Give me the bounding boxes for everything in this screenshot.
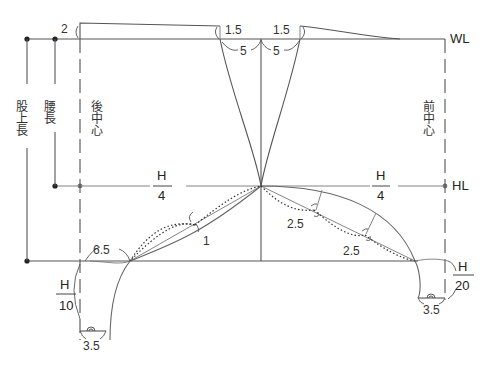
front-crotch-fraction: H 20 <box>453 259 474 293</box>
svg-text:H: H <box>157 168 166 183</box>
hip-line-label: HL <box>452 178 469 193</box>
hip-depth-label: 腰長 <box>41 100 55 124</box>
dart-right-height-arc <box>301 27 305 39</box>
back-center-label: 後中心 <box>88 100 102 136</box>
svg-text:10: 10 <box>59 298 73 313</box>
front-curve-offset-1-label: 2.5 <box>287 217 304 231</box>
front-hip-fraction: H 4 <box>370 168 398 203</box>
back-offset-mark <box>189 212 193 222</box>
waist-line-label: WL <box>450 31 470 46</box>
back-crotch-ext-label: 6.5 <box>93 243 110 257</box>
crotch-line <box>24 258 418 263</box>
back-rise-label: 2 <box>61 22 68 36</box>
dart-right-width-label: 5 <box>273 44 280 58</box>
svg-text:H: H <box>60 277 69 292</box>
front-inseam-arc-right <box>439 298 445 304</box>
dart-left-height-arc <box>215 27 219 39</box>
front-center-label: 前中心 <box>420 99 434 136</box>
back-grainline-icon <box>87 327 95 331</box>
svg-text:股上長: 股上長 <box>13 100 27 136</box>
front-inseam-label: 3.5 <box>423 303 440 317</box>
dart-left-width-arc <box>222 42 238 50</box>
dart-right-width-arc <box>261 40 271 50</box>
dart-left-height-label: 1.5 <box>225 23 242 37</box>
back-inseam-arc-left <box>80 331 86 339</box>
back-crotch-curves <box>90 186 261 340</box>
back-curve-offset-label: 1 <box>203 234 210 248</box>
svg-text:20: 20 <box>455 278 469 293</box>
back-crotch-drop-fraction: H 10 <box>56 277 76 313</box>
front-grainline-icon <box>427 294 435 298</box>
back-hip-fraction: H 4 <box>150 168 186 203</box>
dart-left-width-arc2 <box>251 40 261 50</box>
dart-left-width-label: 5 <box>240 44 247 58</box>
back-crotch-ext-arc-right <box>119 249 130 261</box>
svg-text:4: 4 <box>377 188 384 203</box>
svg-text:H: H <box>458 259 467 274</box>
front-crotch-arc-top <box>448 261 456 271</box>
dart-right-height-label: 1.5 <box>273 23 290 37</box>
pants-pattern-diagram: WL 2 HL 股上長 腰長 後中心 前中心 <box>0 0 492 369</box>
front-crotch-curves <box>261 186 448 298</box>
svg-text:4: 4 <box>158 188 165 203</box>
back-rise-arc <box>76 26 78 38</box>
crotch-depth-label: 股上長 <box>13 100 27 136</box>
back-inseam-arc-right <box>100 331 106 339</box>
back-inseam-label: 3.5 <box>83 339 100 353</box>
front-curve-offset-2-label: 2.5 <box>343 244 360 258</box>
svg-text:H: H <box>376 168 385 183</box>
back-crotch-drop-arc <box>74 264 80 319</box>
